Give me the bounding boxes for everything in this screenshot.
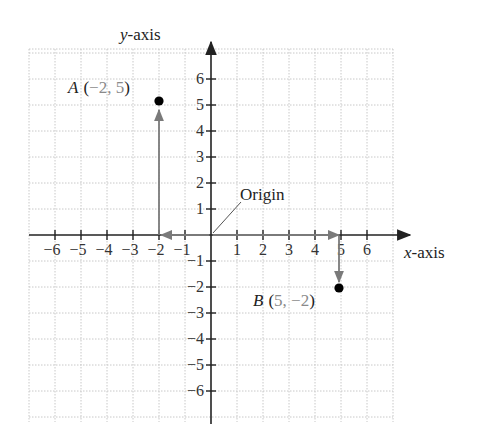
x-tick-label: 1 — [233, 241, 241, 258]
x-tick-label: 6 — [363, 241, 371, 258]
y-axis-title-var: y — [118, 25, 128, 44]
point-a-label: A(−2, 5) — [67, 78, 130, 97]
point-a-close-paren: ) — [124, 78, 130, 97]
origin-label: Origin — [240, 185, 285, 204]
y-axis-title-rest: -axis — [128, 25, 161, 44]
y-tick-label: 2 — [196, 174, 204, 191]
y-tick-label: 6 — [196, 70, 204, 87]
point-b-close-paren: ) — [309, 291, 315, 310]
y-tick-label: −4 — [187, 330, 204, 347]
y-tick-label: 1 — [196, 200, 204, 217]
x-tick-label: −2 — [147, 241, 164, 258]
x-tick-label: −5 — [69, 241, 86, 258]
y-tick-label: −5 — [187, 356, 204, 373]
coordinate-plane: −6 −5 −4 −3 −2 −1 1 2 3 4 5 6 6 5 4 3 2 … — [0, 0, 487, 435]
x-axis-title-rest: -axis — [412, 243, 445, 262]
point-b-coords: 5, −2 — [274, 291, 309, 310]
x-tick-label: −4 — [95, 241, 112, 258]
y-tick-label: 5 — [196, 96, 204, 113]
x-axis-title: x-axis — [403, 243, 445, 262]
y-tick-label: −1 — [187, 252, 204, 269]
y-tick-label: 3 — [196, 148, 204, 165]
y-tick-label: −2 — [187, 278, 204, 295]
y-tick-label: −3 — [187, 304, 204, 321]
y-axis-title: y-axis — [118, 25, 161, 44]
point-a — [154, 96, 163, 105]
y-tick-label: −6 — [187, 382, 204, 399]
x-tick-label: −3 — [121, 241, 138, 258]
x-tick-label: 4 — [311, 241, 319, 258]
x-tick-label: 2 — [259, 241, 267, 258]
x-tick-label: 3 — [285, 241, 293, 258]
point-b-label: B(5, −2) — [253, 291, 315, 310]
point-b-name: B — [253, 291, 264, 310]
point-a-coords: −2, 5 — [89, 78, 124, 97]
y-tick-label: 4 — [196, 122, 204, 139]
point-a-name: A — [67, 78, 79, 97]
point-b — [334, 283, 343, 292]
x-tick-label: −6 — [43, 241, 60, 258]
